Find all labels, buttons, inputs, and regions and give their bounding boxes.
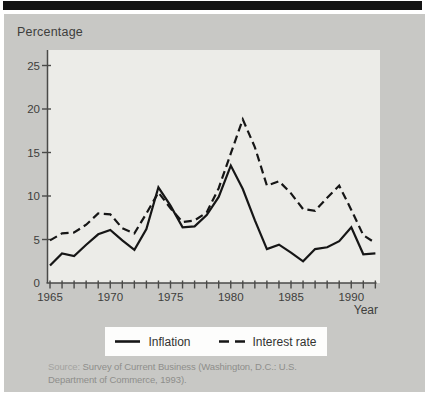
- y-tick-label: 5: [34, 234, 40, 246]
- x-tick-label: 1985: [278, 291, 304, 303]
- y-tick-label: 10: [27, 190, 40, 202]
- source-note: Source: Survey of Current Business (Wash…: [48, 360, 348, 386]
- x-tick-label: 1965: [37, 291, 63, 303]
- source-prefix-label: Source:: [48, 361, 80, 372]
- x-tick-label: 1970: [97, 291, 123, 303]
- y-origin-label: 0: [34, 277, 40, 289]
- y-tick-label: 20: [27, 103, 40, 115]
- legend-item-inflation: Inflation: [115, 335, 190, 349]
- legend-label-inflation: Inflation: [148, 335, 190, 349]
- plot-area: [48, 50, 381, 283]
- x-tick-label: 1975: [158, 291, 184, 303]
- y-tick-label: 15: [27, 147, 40, 159]
- year-axis-label: Year: [330, 303, 378, 317]
- inflation-line-swatch-icon: [115, 339, 140, 344]
- figure-canvas: Percentage 51015202501965197019751980198…: [0, 0, 431, 399]
- source-text: Survey of Current Business (Washington, …: [48, 361, 297, 385]
- interest-rate-line-swatch-icon: [219, 339, 245, 344]
- legend-label-interest-rate: Interest rate: [253, 335, 317, 349]
- legend-box: Inflation Interest rate: [105, 327, 327, 356]
- y-tick-label: 25: [27, 60, 40, 72]
- x-tick-label: 1980: [218, 291, 244, 303]
- x-tick-label: 1990: [338, 291, 364, 303]
- legend-item-interest-rate: Interest rate: [219, 335, 317, 349]
